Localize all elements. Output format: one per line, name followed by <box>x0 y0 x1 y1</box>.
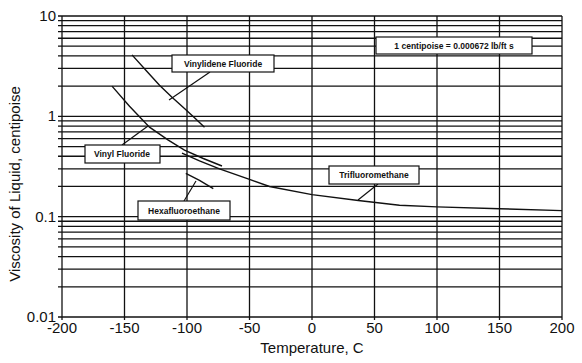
svg-text:Vinylidene Fluoride: Vinylidene Fluoride <box>184 59 263 69</box>
svg-text:1: 1 <box>48 107 56 124</box>
svg-text:150: 150 <box>487 319 512 336</box>
svg-text:10: 10 <box>39 7 56 24</box>
label-vinyl-fluoride: Vinyl Fluoride <box>85 145 160 163</box>
data-curves <box>112 55 562 211</box>
svg-text:50: 50 <box>366 319 383 336</box>
svg-text:0.01: 0.01 <box>27 308 56 325</box>
label-vinylidene-fluoride: Vinylidene Fluoride <box>172 55 274 72</box>
svg-text:100: 100 <box>424 319 449 336</box>
label-hexafluoroethane: Hexafluoroethane <box>138 201 230 220</box>
chart: Vinylidene Fluoride 1 centipoise = 0.000… <box>0 0 582 363</box>
y-axis-ticks: 1010.10.01 <box>27 7 56 325</box>
grid-lines <box>58 16 562 320</box>
svg-text:0: 0 <box>308 319 316 336</box>
svg-text:Trifluoromethane: Trifluoromethane <box>339 170 409 180</box>
y-axis-label: Viscosity of Liquid, centipoise <box>6 86 23 282</box>
svg-text:Vinyl Fluoride: Vinyl Fluoride <box>94 149 150 159</box>
x-axis-ticks: -200-150-100-50050100150200 <box>47 319 575 336</box>
svg-text:-50: -50 <box>239 319 261 336</box>
x-axis-label: Temperature, C <box>260 339 364 356</box>
svg-text:Hexafluoroethane: Hexafluoroethane <box>148 206 220 216</box>
svg-text:0.1: 0.1 <box>35 208 56 225</box>
svg-text:-100: -100 <box>172 319 202 336</box>
svg-text:200: 200 <box>549 319 574 336</box>
svg-text:1 centipoise = 0.000672 lb/ft: 1 centipoise = 0.000672 lb/ft s <box>394 41 514 51</box>
label-conversion-note: 1 centipoise = 0.000672 lb/ft s <box>376 37 532 54</box>
label-trifluoromethane: Trifluoromethane <box>329 166 419 184</box>
svg-text:-150: -150 <box>109 319 139 336</box>
